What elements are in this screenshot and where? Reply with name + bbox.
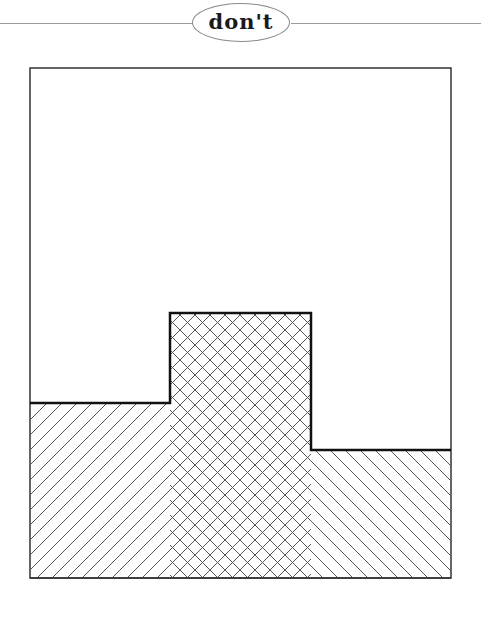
step-area-chart [0, 0, 481, 624]
